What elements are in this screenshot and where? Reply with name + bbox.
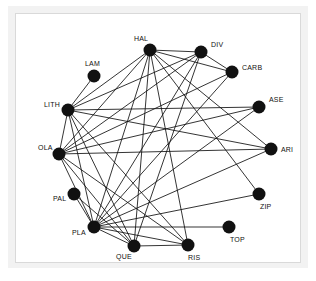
graph-edge-pla-lith bbox=[68, 110, 94, 227]
graph-edge-ari-ola bbox=[59, 149, 271, 154]
node-label-top: TOP bbox=[230, 236, 245, 243]
node-label-lam: LAM bbox=[85, 60, 100, 67]
graph-node-lam[interactable] bbox=[88, 70, 101, 83]
graph-node-que[interactable] bbox=[128, 240, 141, 253]
graph-node-ris[interactable] bbox=[182, 239, 195, 252]
node-label-carb: CARB bbox=[242, 64, 262, 71]
node-label-ola: OLA bbox=[38, 144, 53, 151]
node-label-div: DIV bbox=[211, 41, 223, 48]
graph-node-ola[interactable] bbox=[53, 148, 66, 161]
graph-edge-div-ola bbox=[59, 52, 201, 154]
graph-node-pla[interactable] bbox=[88, 221, 101, 234]
network-graph-figure: HALDIVCARBASEARIZIPTOPRISQUEPLAPALOLALIT… bbox=[0, 0, 316, 281]
graph-node-hal[interactable] bbox=[144, 44, 157, 57]
node-label-hal: HAL bbox=[134, 35, 148, 42]
graph-plot-panel: HALDIVCARBASEARIZIPTOPRISQUEPLAPALOLALIT… bbox=[15, 13, 301, 263]
node-label-zip: ZIP bbox=[260, 203, 272, 210]
graph-edge-ase-lith bbox=[68, 107, 259, 110]
graph-edge-hal-ris bbox=[150, 50, 188, 245]
graph-edge-hal-zip bbox=[150, 50, 259, 194]
graph-node-pal[interactable] bbox=[68, 188, 81, 201]
graph-node-ari[interactable] bbox=[265, 143, 278, 156]
graph-edge-ris-que bbox=[134, 245, 188, 246]
graph-node-ase[interactable] bbox=[253, 101, 266, 114]
graph-edge-hal-ola bbox=[59, 50, 150, 154]
graph-edge-ola-lith bbox=[59, 110, 68, 154]
graph-node-div[interactable] bbox=[195, 46, 208, 59]
node-label-ase: ASE bbox=[269, 96, 284, 103]
graph-node-zip[interactable] bbox=[253, 188, 266, 201]
graph-edge-ris-lith bbox=[68, 110, 188, 245]
graph-edge-hal-pla bbox=[94, 50, 150, 227]
graph-node-lith[interactable] bbox=[62, 104, 75, 117]
node-label-lith: LITH bbox=[44, 101, 60, 108]
node-label-ris: RIS bbox=[188, 254, 200, 261]
node-label-pla: PLA bbox=[72, 229, 86, 236]
graph-node-carb[interactable] bbox=[226, 66, 239, 79]
graph-edge-pal-que bbox=[74, 194, 134, 246]
node-label-que: QUE bbox=[116, 253, 132, 261]
graph-canvas: HALDIVCARBASEARIZIPTOPRISQUEPLAPALOLALIT… bbox=[16, 14, 301, 263]
graph-node-top[interactable] bbox=[223, 221, 236, 234]
node-label-pal: PAL bbox=[53, 195, 66, 202]
node-label-ari: ARI bbox=[281, 146, 293, 153]
graph-edge-que-pla bbox=[94, 227, 134, 246]
